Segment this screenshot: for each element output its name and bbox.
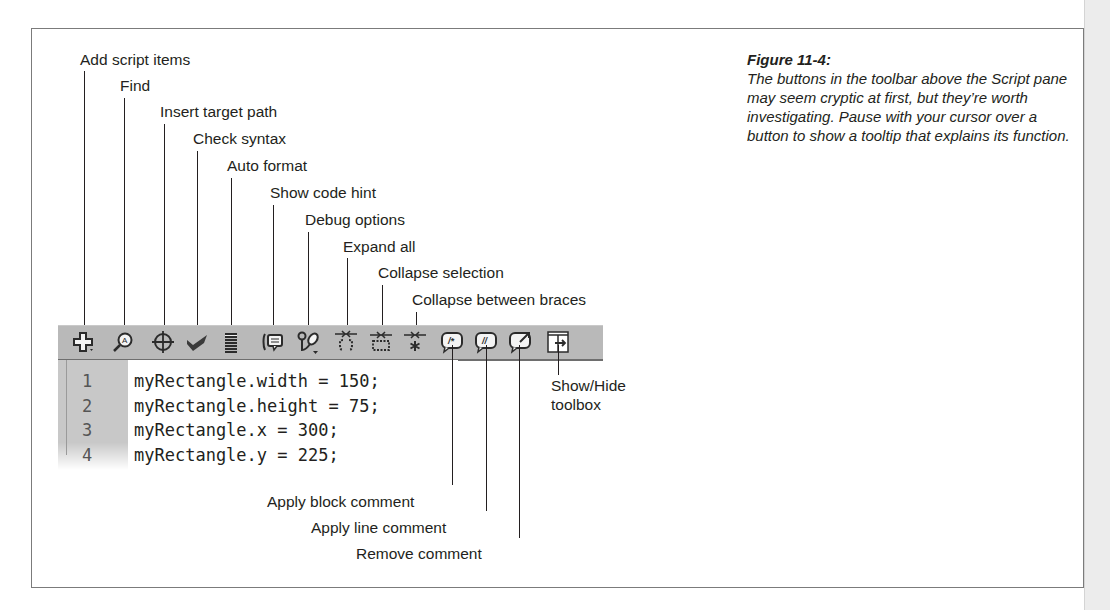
insert-target-path-icon[interactable]	[151, 330, 175, 354]
callout-collapse-selection: Collapse selection	[378, 264, 504, 282]
show-code-hint-icon[interactable]	[260, 330, 284, 354]
check-syntax-icon[interactable]	[185, 330, 209, 354]
callout-debug-options: Debug options	[305, 211, 405, 229]
svg-text:/*: /*	[447, 336, 455, 346]
gutter-divider	[66, 360, 67, 455]
leader-line	[231, 178, 232, 330]
expand-all-icon[interactable]	[334, 330, 358, 354]
leader-line	[486, 345, 487, 511]
leader-line	[308, 232, 309, 332]
leader-line	[164, 124, 165, 332]
callout-insert-target-path: Insert target path	[160, 103, 277, 121]
svg-text:A: A	[122, 336, 128, 345]
callout-expand-all: Expand all	[343, 238, 415, 256]
callout-auto-format: Auto format	[227, 157, 307, 175]
callout-apply-block-comment: Apply block comment	[267, 493, 414, 511]
code-line[interactable]: myRectangle.height = 75;	[134, 396, 380, 416]
line-number-gutter	[58, 360, 128, 470]
callout-show-code-hint: Show code hint	[270, 184, 376, 202]
callout-collapse-between-braces: Collapse between braces	[412, 291, 586, 309]
remove-comment-icon[interactable]	[508, 330, 532, 354]
figure-caption-text: The buttons in the toolbar above the Scr…	[747, 70, 1070, 144]
figure-title: Figure 11-4:	[747, 50, 1077, 69]
debug-options-icon[interactable]	[296, 330, 320, 354]
code-line[interactable]: myRectangle.y = 225;	[134, 445, 339, 465]
callout-add-script-items: Add script items	[80, 51, 190, 69]
callout-find: Find	[120, 77, 150, 95]
code-line[interactable]: myRectangle.x = 300;	[134, 420, 339, 440]
collapse-between-braces-icon[interactable]	[403, 330, 427, 354]
find-icon[interactable]: A	[111, 330, 135, 354]
leader-line	[197, 151, 198, 331]
code-line[interactable]: myRectangle.width = 150;	[134, 371, 380, 391]
line-number: 4	[82, 445, 92, 465]
callout-show-hide-toolbox-line1: Show/Hide	[551, 377, 626, 395]
figure-caption: Figure 11-4: The buttons in the toolbar …	[747, 50, 1077, 145]
line-number: 3	[82, 420, 92, 440]
callout-remove-comment: Remove comment	[356, 545, 482, 563]
leader-line	[558, 345, 559, 375]
leader-line	[84, 71, 85, 329]
callout-show-hide-toolbox-line2: toolbox	[551, 396, 601, 414]
page-margin-sidebar	[1084, 0, 1110, 610]
callout-apply-line-comment: Apply line comment	[311, 519, 446, 537]
callout-check-syntax: Check syntax	[193, 130, 286, 148]
line-number: 1	[82, 371, 92, 391]
add-script-items-icon[interactable]	[72, 330, 96, 354]
leader-line	[519, 345, 520, 538]
auto-format-icon[interactable]	[219, 330, 243, 354]
leader-line	[273, 205, 274, 332]
line-number: 2	[82, 396, 92, 416]
leader-line	[452, 345, 453, 485]
leader-line	[124, 98, 125, 329]
collapse-selection-icon[interactable]	[369, 330, 393, 354]
script-pane-toolbar: A /* //	[58, 325, 603, 361]
